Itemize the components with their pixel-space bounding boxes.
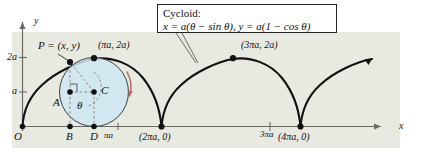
cycloid-formula-callout: Cycloid: x = a(θ − sin θ), y = a(1 − cos… [157, 4, 337, 33]
x-tick-label-3pia: 3πa [260, 130, 274, 139]
label-arch1-apex: (πa, 2a) [98, 40, 130, 50]
point-origin [20, 124, 26, 130]
point-C [91, 89, 97, 95]
label-2pia-point: (2πa, 0) [139, 132, 171, 142]
point-2pia [158, 123, 164, 129]
x-axis-label: x [399, 121, 403, 131]
label-4pia-point: (4πa, 0) [278, 132, 310, 142]
label-arch2-apex: (3πa, 2a) [241, 40, 278, 50]
label-point-D: D [90, 131, 98, 142]
leader-line-callout [176, 33, 198, 63]
label-angle-theta: θ [77, 100, 82, 111]
y-tick-label-2a: 2a [7, 52, 17, 62]
point-B [67, 124, 73, 130]
label-point-P: P = (x, y) [38, 40, 80, 51]
callout-equation: x = a(θ − sin θ), y = a(1 − cos θ) [163, 20, 332, 33]
y-tick-label-a: a [12, 86, 17, 96]
x-axis [22, 122, 381, 131]
point-4pia [297, 123, 303, 129]
point-D [91, 124, 97, 130]
leader-line-P [58, 54, 69, 61]
label-point-A: A [53, 97, 60, 108]
callout-title: Cycloid: [163, 7, 332, 20]
cycloid-figure: Cycloid: x = a(θ − sin θ), y = a(1 − cos… [0, 0, 423, 161]
y-axis-label: y [34, 16, 38, 26]
origin-label: O [14, 131, 22, 142]
point-arch2-apex [230, 55, 236, 61]
point-arch1-apex [91, 55, 97, 61]
label-point-C: C [101, 85, 108, 96]
label-point-B: B [66, 131, 73, 142]
y-axis [19, 22, 27, 131]
point-A [67, 89, 73, 95]
x-tick-label-pia: πa [104, 131, 113, 140]
